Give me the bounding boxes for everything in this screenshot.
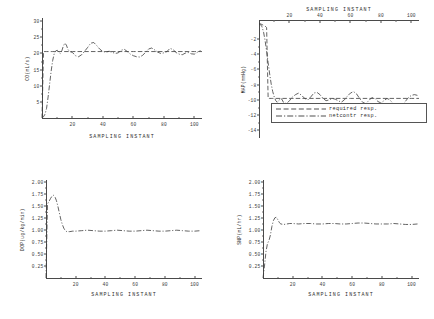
y-axis-label-co: CO(mL/s) bbox=[24, 56, 29, 80]
y-minor-tick bbox=[45, 248, 47, 249]
x-tick-mark bbox=[380, 20, 381, 23]
x-minor-tick bbox=[274, 20, 275, 22]
y-tick-mark bbox=[44, 206, 47, 207]
series-line bbox=[259, 24, 419, 99]
x-tick-mark bbox=[194, 276, 195, 279]
y-tick-mark bbox=[44, 230, 47, 231]
y-tick-mark bbox=[261, 254, 264, 255]
panel-co: 5101520253020406080100 CO(mL/s) SAMPLING… bbox=[0, 0, 217, 160]
y-tick-mark bbox=[257, 84, 260, 85]
x-tick-label: 20 bbox=[290, 282, 296, 287]
y-tick-mark bbox=[261, 206, 264, 207]
y-tick-mark bbox=[257, 39, 260, 40]
y-tick-mark bbox=[44, 266, 47, 267]
panel-dop: 0.250.500.751.001.251.501.752.0020406080… bbox=[0, 160, 217, 319]
y-tick-mark bbox=[257, 54, 260, 55]
x-tick-label: 40 bbox=[102, 282, 108, 287]
co-curves bbox=[42, 18, 202, 118]
y-minor-tick bbox=[45, 212, 47, 213]
y-minor-tick bbox=[258, 92, 260, 93]
series-line bbox=[42, 52, 202, 118]
x-minor-tick bbox=[148, 117, 149, 119]
y-tick-mark bbox=[257, 99, 260, 100]
x-tick-label: 100 bbox=[190, 282, 199, 287]
y-minor-tick bbox=[258, 61, 260, 62]
x-tick-label: 60 bbox=[130, 122, 136, 127]
x-minor-tick bbox=[150, 277, 151, 279]
series-line bbox=[259, 24, 417, 109]
y-tick-mark bbox=[257, 115, 260, 116]
x-tick-label: 40 bbox=[319, 282, 325, 287]
x-tick-mark bbox=[381, 276, 382, 279]
y-minor-tick bbox=[41, 45, 43, 46]
y-tick-mark bbox=[261, 218, 264, 219]
x-minor-tick bbox=[57, 117, 58, 119]
y-tick-mark bbox=[40, 85, 43, 86]
y-minor-tick bbox=[262, 260, 264, 261]
figure-four-subplots: 5101520253020406080100 CO(mL/s) SAMPLING… bbox=[0, 0, 434, 319]
x-tick-mark bbox=[352, 276, 353, 279]
x-axis-label-snp: SAMPLING INSTANT bbox=[263, 292, 419, 298]
x-tick-mark bbox=[72, 116, 73, 119]
x-minor-tick bbox=[120, 277, 121, 279]
x-minor-tick bbox=[90, 277, 91, 279]
panel-snp: 0.250.500.751.001.251.501.752.0020406080… bbox=[217, 160, 434, 319]
y-minor-tick bbox=[258, 77, 260, 78]
y-tick-mark bbox=[257, 69, 260, 70]
y-minor-tick bbox=[45, 260, 47, 261]
x-minor-tick bbox=[304, 20, 305, 22]
x-axis-dop bbox=[46, 278, 202, 279]
x-tick-label: 20 bbox=[70, 122, 76, 127]
y-tick-mark bbox=[44, 254, 47, 255]
x-tick-mark bbox=[411, 276, 412, 279]
y-axis-label-dop: DOP(ug/kg/min) bbox=[20, 208, 25, 251]
x-minor-tick bbox=[179, 277, 180, 279]
y-minor-tick bbox=[258, 46, 260, 47]
x-tick-label: 80 bbox=[378, 13, 384, 18]
x-axis-label-dop: SAMPLING INSTANT bbox=[46, 292, 202, 298]
y-tick-mark bbox=[261, 242, 264, 243]
x-axis-co bbox=[42, 118, 202, 119]
legend-label-required: required resp. bbox=[329, 106, 377, 112]
x-tick-mark bbox=[133, 116, 134, 119]
x-tick-label: 40 bbox=[317, 13, 323, 18]
x-minor-tick bbox=[335, 20, 336, 22]
legend-label-netcontr: netcontr resp. bbox=[329, 113, 377, 119]
legend-item-required: required resp. bbox=[275, 106, 423, 113]
x-minor-tick bbox=[60, 277, 61, 279]
y-tick-mark bbox=[40, 69, 43, 70]
x-tick-label: 80 bbox=[161, 122, 167, 127]
x-minor-tick bbox=[179, 117, 180, 119]
y-tick-mark bbox=[44, 194, 47, 195]
y-tick-mark bbox=[40, 21, 43, 22]
y-minor-tick bbox=[41, 93, 43, 94]
y-minor-tick bbox=[262, 212, 264, 213]
x-minor-tick bbox=[307, 277, 308, 279]
x-minor-tick bbox=[118, 117, 119, 119]
x-tick-mark bbox=[105, 276, 106, 279]
y-tick-mark bbox=[44, 218, 47, 219]
y-tick-mark bbox=[40, 101, 43, 102]
x-tick-mark bbox=[292, 276, 293, 279]
y-minor-tick bbox=[41, 61, 43, 62]
y-minor-tick bbox=[262, 224, 264, 225]
x-tick-label: 60 bbox=[349, 282, 355, 287]
x-tick-mark bbox=[164, 276, 165, 279]
x-minor-tick bbox=[87, 117, 88, 119]
x-tick-label: 60 bbox=[347, 13, 353, 18]
x-minor-tick bbox=[396, 20, 397, 22]
x-tick-mark bbox=[411, 20, 412, 23]
x-tick-label: 40 bbox=[100, 122, 106, 127]
series-line bbox=[263, 217, 418, 278]
x-tick-label: 100 bbox=[190, 122, 199, 127]
x-tick-label: 80 bbox=[162, 282, 168, 287]
x-axis-label-map: SAMPLING INSTANT bbox=[259, 7, 419, 13]
x-tick-mark bbox=[194, 116, 195, 119]
y-minor-tick bbox=[45, 224, 47, 225]
legend-key-dashdot-icon bbox=[275, 113, 327, 119]
y-minor-tick bbox=[41, 29, 43, 30]
x-minor-tick bbox=[277, 277, 278, 279]
y-minor-tick bbox=[45, 236, 47, 237]
x-tick-label: 100 bbox=[407, 13, 416, 18]
x-tick-mark bbox=[350, 20, 351, 23]
